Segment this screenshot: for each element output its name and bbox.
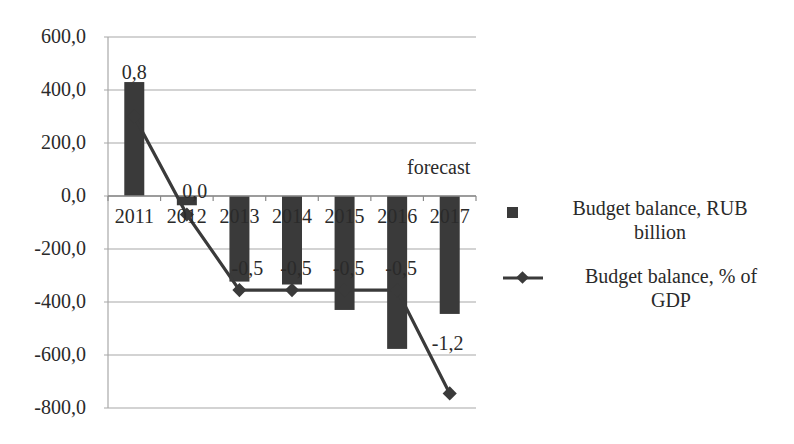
data-label: 0,8 [109, 62, 159, 82]
y-tick-label: 0,0 [0, 185, 86, 205]
x-tick-label: 2014 [262, 206, 322, 226]
y-tick-label: 400,0 [0, 79, 86, 99]
y-tick-label: 600,0 [0, 26, 86, 46]
legend-line-label-line2: GDP [560, 288, 782, 312]
x-tick-label: 2017 [420, 206, 480, 226]
data-label: -0,5 [324, 258, 374, 278]
bar [124, 82, 144, 196]
y-tick-label: -400,0 [0, 291, 86, 311]
x-tick-label: 2012 [157, 206, 217, 226]
x-tick-label: 2016 [367, 206, 427, 226]
x-tick-label: 2011 [104, 206, 164, 226]
y-tick-label: -600,0 [0, 344, 86, 364]
legend-bar-swatch-icon [507, 207, 518, 218]
forecast-annotation: forecast [407, 157, 470, 177]
legend-line-label-line1: Budget balance, % of [560, 264, 782, 288]
legend-bar-label-line2: billion [540, 220, 780, 244]
data-label: -0,5 [222, 258, 272, 278]
y-tick-label: -200,0 [0, 238, 86, 258]
x-tick-label: 2015 [315, 206, 375, 226]
y-tick-label: 200,0 [0, 132, 86, 152]
legend-line-swatch-icon [503, 271, 543, 284]
data-label: -0,5 [376, 258, 426, 278]
diamond-marker-icon [443, 386, 457, 400]
legend-bar-label: Budget balance, RUB billion [540, 196, 780, 244]
data-label: -0,5 [271, 258, 321, 278]
data-label: 0,0 [170, 181, 220, 201]
legend-bar-label-line1: Budget balance, RUB [540, 196, 780, 220]
data-label: -1,2 [423, 333, 473, 353]
x-tick-label: 2013 [209, 206, 269, 226]
diamond-marker-icon [285, 283, 299, 297]
legend-line-label: Budget balance, % of GDP [560, 264, 782, 312]
y-tick-label: -800,0 [0, 397, 86, 417]
